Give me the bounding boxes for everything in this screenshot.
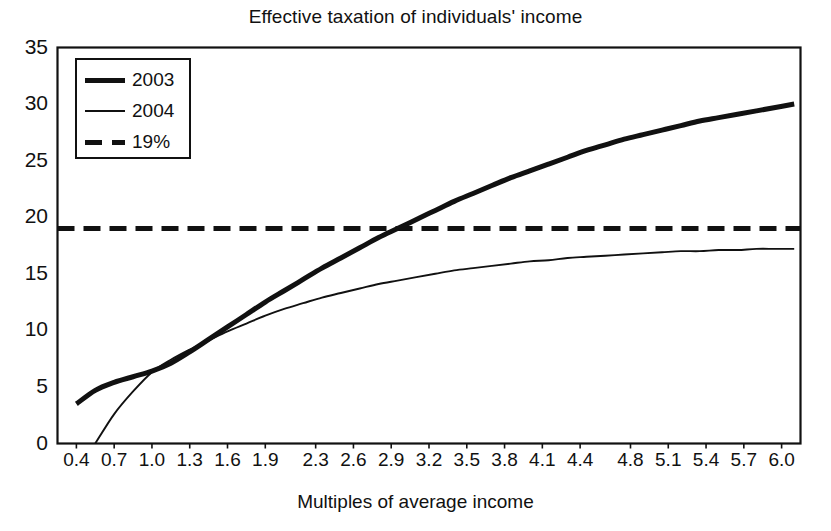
y-tick-label: 0 — [2, 431, 48, 455]
y-tick-label: 15 — [2, 261, 48, 285]
x-tick-label: 1.0 — [139, 449, 165, 471]
x-tick-label: 1.6 — [214, 449, 240, 471]
chart-figure: Effective taxation of individuals' incom… — [0, 0, 831, 531]
legend-swatch-solid-thick — [85, 73, 125, 87]
y-tick-label: 5 — [2, 374, 48, 398]
x-tick-label: 3.5 — [454, 449, 480, 471]
legend-label-0: 2003 — [132, 70, 174, 89]
legend-swatch-dashed — [85, 135, 125, 149]
y-tick-label: 30 — [2, 91, 48, 115]
y-tick-label: 20 — [2, 204, 48, 228]
y-tick-label: 25 — [2, 148, 48, 172]
x-tick-label: 4.4 — [567, 449, 593, 471]
x-tick-label: 2.3 — [302, 449, 328, 471]
y-tick-label: 10 — [2, 317, 48, 341]
legend: 2003 2004 19% — [75, 58, 191, 159]
x-axis-title: Multiples of average income — [0, 491, 831, 513]
x-tick-label: 0.7 — [101, 449, 127, 471]
legend-item-2: 19% — [77, 125, 193, 158]
x-tick-label: 3.2 — [416, 449, 442, 471]
x-tick-label: 4.8 — [617, 449, 643, 471]
y-tick-label: 35 — [2, 35, 48, 59]
x-tick-label: 1.9 — [252, 449, 278, 471]
x-tick-label: 2.9 — [378, 449, 404, 471]
x-tick-label: 1.3 — [177, 449, 203, 471]
legend-label-2: 19% — [132, 132, 170, 151]
legend-label-1: 2004 — [132, 101, 174, 120]
x-tick-label: 0.4 — [63, 449, 89, 471]
legend-swatch-solid-thin — [85, 104, 125, 118]
legend-item-0: 2003 — [77, 63, 193, 96]
x-tick-label: 5.1 — [655, 449, 681, 471]
x-tick-label: 2.6 — [340, 449, 366, 471]
legend-item-1: 2004 — [77, 94, 193, 127]
x-tick-label: 5.7 — [731, 449, 757, 471]
x-tick-label: 3.8 — [491, 449, 517, 471]
x-tick-label: 6.0 — [768, 449, 794, 471]
x-tick-label: 5.4 — [693, 449, 719, 471]
x-tick-label: 4.1 — [529, 449, 555, 471]
